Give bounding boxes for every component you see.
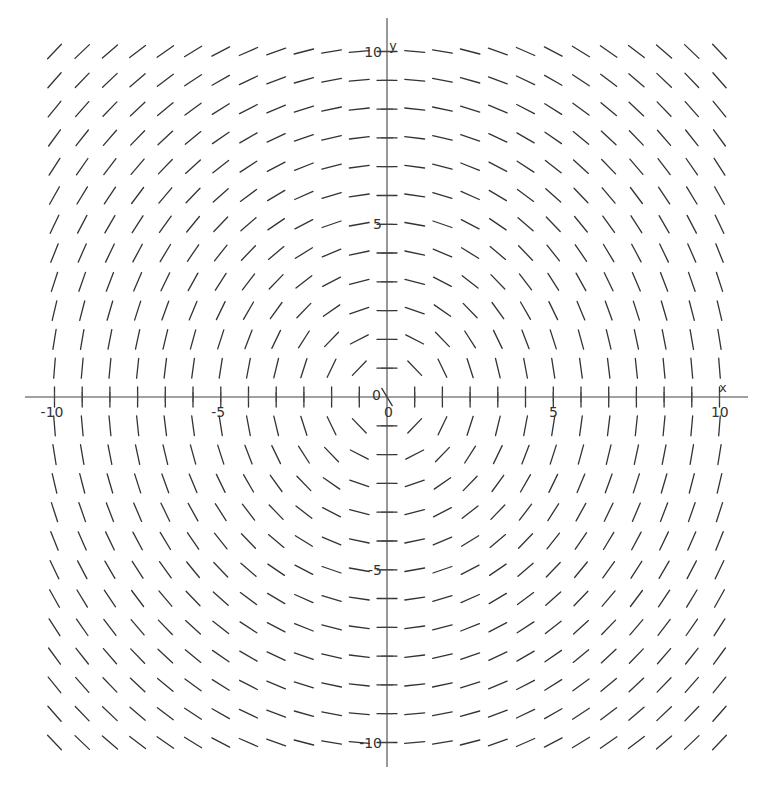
slope-segment	[104, 159, 116, 175]
x-tick-label: 10	[711, 404, 729, 420]
slope-segment	[48, 101, 61, 117]
slope-segment	[137, 416, 139, 436]
slope-segment	[212, 75, 229, 85]
slope-segment	[267, 710, 286, 717]
slope-segment	[461, 163, 480, 170]
slope-segment	[714, 130, 726, 146]
slope-segment	[322, 596, 341, 602]
slope-segment	[433, 78, 453, 82]
slope-segment	[297, 303, 311, 317]
slope-segment	[657, 736, 672, 749]
slope-segment	[77, 159, 88, 175]
slope-segment	[608, 416, 610, 436]
slope-segment	[634, 330, 638, 350]
slope-segment	[433, 712, 453, 716]
slope-segment	[461, 106, 480, 112]
slope-segment	[131, 159, 144, 174]
slope-segment	[49, 130, 61, 146]
slope-segment	[433, 50, 453, 53]
slope-segment	[350, 307, 369, 314]
slope-segment	[717, 301, 722, 320]
slope-segment	[188, 503, 198, 521]
slope-segment	[349, 568, 369, 572]
slope-segment	[630, 188, 642, 204]
slope-segment	[716, 503, 722, 522]
slope-segment	[463, 303, 477, 317]
slope-segment	[691, 358, 693, 378]
slope-segment	[188, 273, 198, 291]
slope-segment	[545, 104, 562, 115]
slope-segment	[51, 272, 57, 291]
slope-segment	[519, 504, 531, 520]
slope-segment	[185, 737, 202, 747]
slope-segment	[214, 563, 228, 578]
slope-segment	[212, 104, 229, 115]
slope-segment	[77, 187, 87, 204]
slope-segment	[577, 301, 585, 320]
slope-segment	[107, 474, 113, 493]
slope-segment	[185, 132, 201, 145]
slope-segment	[601, 649, 616, 663]
slope-segment	[215, 273, 226, 290]
slope-segment	[158, 131, 173, 145]
slope-segment	[241, 563, 256, 576]
slope-segment	[218, 445, 224, 464]
slope-segment	[719, 358, 721, 378]
slope-segment	[580, 358, 583, 378]
slope-segment	[492, 475, 504, 491]
slope-segment	[433, 741, 453, 744]
slope-segment	[322, 625, 341, 630]
slope-segment	[601, 131, 616, 145]
slope-segment	[547, 533, 560, 549]
slope-segment	[522, 445, 529, 464]
slope-segment	[349, 108, 369, 110]
slope-segment	[576, 273, 586, 291]
slope-segment	[267, 77, 286, 84]
slope-segment	[108, 330, 112, 350]
slope-segment	[104, 187, 115, 204]
slope-segment	[635, 358, 637, 378]
slope-segment	[685, 102, 698, 117]
slope-segment	[603, 562, 615, 578]
slope-segment	[632, 503, 640, 521]
slope-segment	[577, 474, 585, 493]
slope-segment	[519, 274, 531, 290]
slope-segment	[629, 45, 645, 57]
slope-segment	[295, 565, 313, 574]
slope-segment	[78, 532, 86, 550]
slope-segment	[76, 102, 89, 117]
slope-segment	[350, 510, 369, 515]
slope-segment	[349, 597, 369, 600]
slope-segment	[104, 590, 115, 607]
slope-segment	[462, 276, 478, 288]
slope-segment	[546, 563, 560, 578]
slope-segment	[161, 273, 170, 291]
slope-segment	[633, 301, 639, 320]
y-tick-label: 0	[384, 404, 393, 420]
slope-segment	[601, 74, 617, 86]
slope-segment	[460, 49, 479, 54]
slope-segment	[517, 133, 534, 143]
slope-segment	[573, 679, 589, 691]
slope-segment	[349, 137, 369, 139]
slope-segment	[544, 47, 562, 56]
slope-segment	[600, 737, 617, 748]
slope-segment	[105, 216, 115, 233]
slope-segment	[133, 244, 142, 262]
slope-segment	[185, 103, 201, 115]
slope-segment	[212, 680, 229, 691]
slope-segment	[218, 330, 224, 349]
slope-segment	[160, 532, 170, 549]
slope-segment	[81, 445, 84, 465]
slope-segment	[687, 561, 696, 579]
slope-segment	[214, 217, 228, 232]
slope-segment	[461, 135, 480, 142]
slope-segment	[660, 244, 669, 262]
slope-segment	[274, 359, 279, 378]
slope-segment	[130, 736, 146, 748]
slope-segment	[465, 446, 476, 463]
slope-segment	[322, 712, 342, 716]
slope-segment	[296, 276, 312, 288]
slope-segment	[436, 332, 450, 346]
slope-segment	[462, 248, 479, 258]
